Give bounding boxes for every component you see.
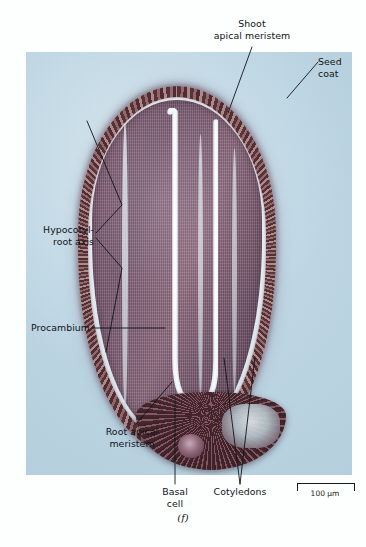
label-root-apical-meristem: Root apical meristem xyxy=(78,426,186,449)
micropylar-region xyxy=(222,404,280,448)
figure-panel: Shoot apical meristem Seed coat Hypocoty… xyxy=(0,0,366,547)
label-shoot-apical-meristem: Shoot apical meristem xyxy=(190,18,314,41)
scale-bar: 100 μm xyxy=(297,483,353,499)
label-procambium: Procambium xyxy=(10,322,90,334)
scale-bar-label: 100 μm xyxy=(297,489,353,498)
procambium-strand xyxy=(122,122,128,408)
label-hypocotyl-root-axis: Hypocotyl- root axis xyxy=(14,224,94,247)
cotyledon-cleft xyxy=(160,108,218,438)
procambium-strand xyxy=(232,148,237,394)
label-cotyledons: Cotyledons xyxy=(196,486,284,498)
label-seed-coat: Seed coat xyxy=(318,56,364,79)
micrograph-image xyxy=(26,52,352,475)
panel-label: (f) xyxy=(0,512,366,523)
